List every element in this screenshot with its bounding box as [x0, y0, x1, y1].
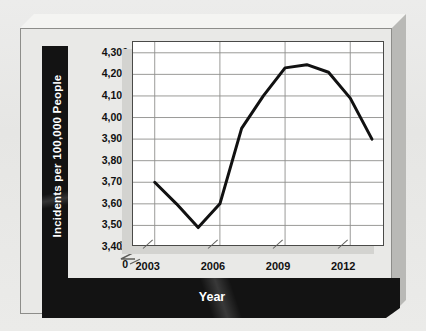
x-axis-tick-label: 2012 [331, 260, 355, 272]
y-axis-tick-label: 3,800 [70, 154, 128, 166]
data-series-line [155, 65, 372, 228]
plot-area-wrapper [132, 41, 384, 246]
figure-background: Incidents per 100,000 People Year 4,3004… [0, 0, 426, 331]
y-axis-tick-label: 3,500 [70, 218, 128, 230]
plot-area [132, 41, 384, 246]
x-axis-tick-label: 2009 [266, 260, 290, 272]
x-axis-title: Year [42, 290, 382, 304]
vertical-gridlines [155, 42, 351, 246]
y-axis-tick-label: 3,600 [70, 197, 128, 209]
slab-right-bevel [392, 14, 406, 314]
chart-3d-slab: Incidents per 100,000 People Year 4,3004… [20, 14, 406, 314]
horizontal-gridlines [133, 53, 384, 246]
y-axis-tick-label: 3,700 [70, 175, 128, 187]
y-axis-tick-label: 4,300 [70, 46, 128, 58]
slab-top-bevel [20, 14, 406, 28]
y-axis-title-band: Incidents per 100,000 People [42, 46, 68, 278]
y-axis-tick-label: 4,000 [70, 111, 128, 123]
x-axis-tick-label: 2003 [135, 260, 159, 272]
y-axis-tick-label: 4,100 [70, 89, 128, 101]
y-axis-tick-label: 3,900 [70, 132, 128, 144]
x-axis-tick-label: 2006 [201, 260, 225, 272]
y-axis-tick-label: 4,200 [70, 67, 128, 79]
y-axis-title: Incidents per 100,000 People [51, 61, 63, 251]
line-chart-svg [133, 42, 384, 246]
